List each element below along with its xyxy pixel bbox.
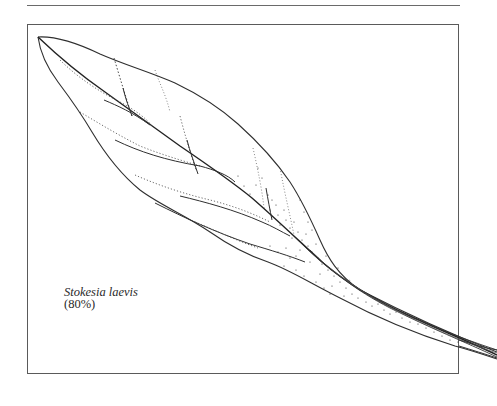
figure-caption: Stokesia laevis (80%) bbox=[64, 286, 138, 310]
leaf-illustration bbox=[0, 0, 497, 406]
leaf-stippling bbox=[237, 167, 458, 342]
scale-percentage: (80%) bbox=[64, 298, 138, 310]
